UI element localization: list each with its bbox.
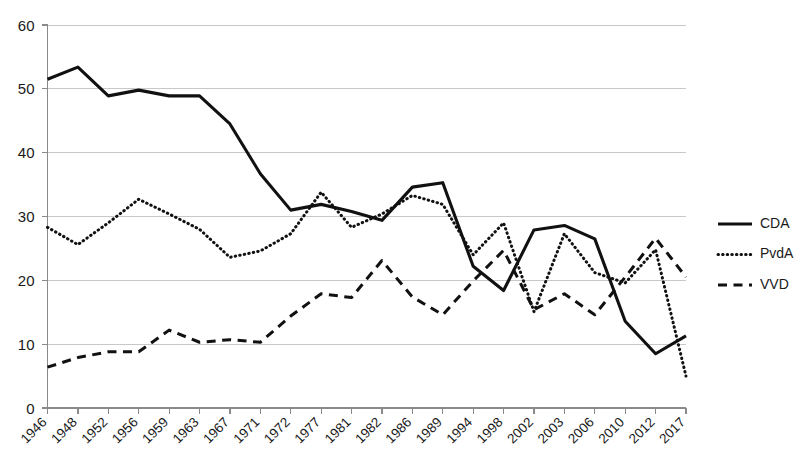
x-tick-label: 1963 (170, 415, 202, 447)
x-tick-label: 1972 (261, 415, 293, 447)
legend-label-vvd: VVD (760, 276, 789, 292)
x-tick-label: 1948 (48, 415, 80, 447)
legend-group: CDAPvdAVVD (718, 215, 794, 292)
x-axis-group: 1946194819521956195919631967197119721977… (18, 408, 688, 446)
x-tick-label: 1989 (413, 415, 445, 447)
series-line-vvd (48, 238, 687, 367)
x-tick-label: 2012 (626, 415, 658, 447)
x-tick-label: 1967 (200, 415, 232, 447)
x-tick-label: 1959 (139, 415, 171, 447)
y-tick-label: 60 (18, 17, 35, 34)
x-tick-label: 2002 (504, 415, 536, 447)
y-tick-label: 50 (18, 80, 35, 97)
legend-label-cda: CDA (760, 215, 790, 231)
x-tick-label: 1956 (109, 415, 141, 447)
y-tick-label: 0 (26, 400, 34, 417)
y-axis-group: 6050403020100 (18, 17, 48, 417)
x-tick-label: 1998 (474, 415, 506, 447)
x-tick-label: 1977 (291, 415, 323, 447)
x-tick-label: 2017 (656, 415, 688, 447)
x-tick-label: 1971 (231, 415, 263, 447)
chart-canvas: 6050403020100 19461948195219561959196319… (0, 0, 798, 475)
line-chart-container: 6050403020100 19461948195219561959196319… (0, 0, 798, 475)
x-tick-label: 1946 (18, 415, 50, 447)
x-tick-label: 2003 (535, 415, 567, 447)
x-tick-label: 2006 (565, 415, 597, 447)
x-tick-label: 1952 (79, 415, 111, 447)
x-tick-label: 1994 (443, 414, 475, 446)
x-tick-label: 2010 (595, 415, 627, 447)
x-tick-label: 1986 (383, 415, 415, 447)
y-tick-label: 30 (18, 208, 35, 225)
y-tick-label: 40 (18, 144, 35, 161)
x-tick-label: 1981 (322, 415, 354, 447)
x-tick-label: 1982 (352, 415, 384, 447)
y-tick-label: 10 (18, 336, 35, 353)
series-group (48, 67, 687, 376)
legend-label-pvda: PvdA (760, 245, 794, 261)
y-tick-label: 20 (18, 272, 35, 289)
